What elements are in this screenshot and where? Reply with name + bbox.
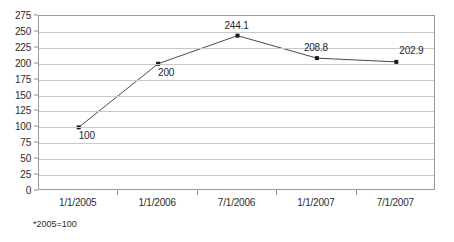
y-tick-label: 100 — [15, 121, 31, 132]
y-tick-label: 275 — [15, 10, 31, 21]
x-tick-label: 1/1/2007 — [297, 197, 334, 208]
y-tick-label: 150 — [15, 89, 31, 100]
data-point-marker — [236, 34, 240, 38]
y-tick-label: 0 — [26, 185, 31, 196]
x-axis: 1/1/20051/1/20067/1/20061/1/20077/1/2007 — [38, 190, 435, 214]
data-point-label: 244.1 — [225, 20, 249, 31]
data-point-label: 100 — [79, 130, 95, 141]
y-tick-label: 250 — [15, 25, 31, 36]
series-polyline — [79, 36, 397, 128]
gridline — [39, 32, 434, 33]
y-tick-label: 175 — [15, 73, 31, 84]
gridline — [39, 48, 434, 49]
gridline — [39, 143, 434, 144]
series-line-index — [39, 16, 436, 191]
gridline — [39, 159, 434, 160]
x-tick-label: 1/1/2005 — [59, 197, 96, 208]
data-point-label: 208.8 — [304, 42, 328, 53]
gridline — [39, 96, 434, 97]
y-axis: 0255075100125150175200225250275 — [0, 0, 38, 190]
y-tick-label: 125 — [15, 105, 31, 116]
x-tick-label: 1/1/2006 — [138, 197, 175, 208]
gridline — [39, 111, 434, 112]
x-tick-mark — [276, 190, 277, 195]
x-tick-mark — [117, 190, 118, 195]
line-chart: 0255075100125150175200225250275 1/1/2005… — [0, 0, 454, 242]
x-tick-label: 7/1/2006 — [218, 197, 255, 208]
gridline — [39, 64, 434, 65]
gridline — [39, 80, 434, 81]
y-tick-label: 75 — [20, 137, 31, 148]
x-tick-mark — [356, 190, 357, 195]
gridline — [39, 175, 434, 176]
y-tick-label: 25 — [20, 169, 31, 180]
y-tick-label: 225 — [15, 41, 31, 52]
data-point-marker — [315, 56, 319, 60]
plot-area — [38, 15, 435, 190]
y-tick-label: 200 — [15, 57, 31, 68]
data-point-label: 200 — [158, 67, 174, 78]
data-point-label: 202.9 — [399, 45, 423, 56]
chart-footnote: *2005=100 — [33, 219, 77, 229]
x-tick-mark — [197, 190, 198, 195]
gridline — [39, 127, 434, 128]
y-tick-label: 50 — [20, 153, 31, 164]
x-tick-label: 7/1/2007 — [377, 197, 414, 208]
